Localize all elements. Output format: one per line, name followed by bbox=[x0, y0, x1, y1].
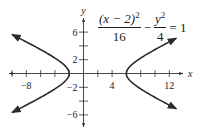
eq-den2: 4 bbox=[157, 28, 164, 43]
eq-den1: 16 bbox=[113, 28, 126, 43]
fraction-x-term: (x − 2)2 16 bbox=[98, 12, 141, 43]
x-tick-label: −8 bbox=[21, 80, 32, 91]
eq-minus: − bbox=[144, 20, 151, 36]
eq-num2-exp: 2 bbox=[161, 10, 166, 20]
x-axis-label: x bbox=[187, 68, 193, 79]
y-tick-label: 2 bbox=[73, 54, 78, 65]
fraction-y-term: y2 4 bbox=[154, 12, 166, 43]
y-axis-label: y bbox=[80, 5, 86, 16]
eq-rhs: = 1 bbox=[169, 20, 186, 36]
y-tick-label: −2 bbox=[67, 82, 78, 93]
x-tick-label: 4 bbox=[110, 80, 115, 91]
y-tick-label: −6 bbox=[67, 109, 78, 120]
equation-label: (x − 2)2 16 − y2 4 = 1 bbox=[98, 12, 189, 43]
y-tick-label: 6 bbox=[73, 27, 78, 38]
eq-num1-exp: 2 bbox=[135, 10, 140, 20]
eq-num1: (x − 2) bbox=[99, 11, 135, 26]
x-tick-label: 12 bbox=[164, 80, 174, 91]
